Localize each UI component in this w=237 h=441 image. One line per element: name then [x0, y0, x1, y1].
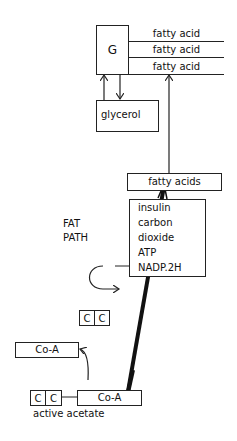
- cofactor-atp: ATP: [138, 247, 156, 259]
- curved-arrow: [90, 266, 120, 289]
- cofactor-insulin: insulin: [138, 202, 171, 214]
- glycerol-box: glycerol: [96, 100, 159, 132]
- released-coa-box: Co-A: [15, 342, 79, 358]
- cofactor-nadp: NADP.2H: [138, 262, 182, 274]
- path-carbon-2: C: [94, 310, 110, 326]
- fat-path-label-line1: FAT: [63, 218, 80, 230]
- path-carbon-1: C: [79, 310, 95, 326]
- acetate-carbon-1: C: [30, 390, 46, 406]
- cofactor-dioxide: dioxide: [138, 232, 174, 244]
- fat-path-label-line2: PATH: [63, 232, 88, 244]
- coa-release-arrow: [80, 349, 88, 380]
- triglyceride-block: G fatty acid fatty acid fatty acid: [96, 25, 224, 75]
- fatty-acids-label: fatty acids: [148, 176, 201, 188]
- fatty-acid-row-1: fatty acid: [128, 25, 224, 42]
- released-coa-label: Co-A: [35, 344, 59, 356]
- fatty-acid-row-2: fatty acid: [128, 41, 224, 58]
- cofactor-box: insulin carbon dioxide ATP NADP.2H: [129, 199, 206, 277]
- glycerol-label: glycerol: [101, 109, 140, 121]
- glycerol-head-label: G: [97, 26, 129, 74]
- acetate-coa-label: Co-A: [98, 392, 122, 404]
- cofactor-carbon: carbon: [138, 217, 173, 229]
- acetate-coa-box: Co-A: [77, 390, 142, 406]
- acetate-carbon-2: C: [45, 390, 62, 406]
- fatty-acid-row-3: fatty acid: [128, 57, 224, 74]
- fatty-acids-box: fatty acids: [127, 173, 222, 191]
- active-acetate-label: active acetate: [33, 408, 104, 420]
